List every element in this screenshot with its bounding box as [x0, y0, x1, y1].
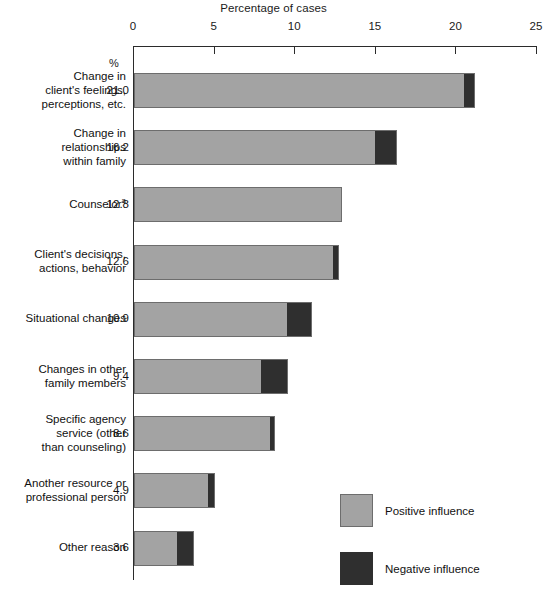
bar-segment-positive	[135, 131, 375, 164]
legend-item-positive: Positive influence	[340, 494, 475, 527]
bar-chart: Percentage of cases 0510152025 % Change …	[0, 0, 547, 592]
bar-row: Situational changes10.9	[0, 302, 547, 335]
bar-row: Specific agencyservice (otherthan counse…	[0, 416, 547, 449]
x-axis-tick-label: 0	[130, 20, 136, 32]
bar-row-label-line: Specific agency	[0, 412, 126, 426]
bar-segment-positive	[135, 417, 270, 450]
bar-row-label-line: Change in	[0, 69, 126, 83]
stacked-bar	[134, 73, 475, 108]
bar-segment-positive	[135, 303, 287, 336]
stacked-bar	[134, 473, 215, 508]
bar-row-label-line: than counseling)	[0, 440, 126, 454]
x-axis-tick-label: 10	[288, 20, 301, 32]
bar-segment-positive	[135, 246, 333, 279]
legend-label-negative: Negative influence	[385, 563, 480, 575]
legend-item-negative: Negative influence	[340, 552, 480, 585]
bar-row: Changes in otherfamily members9.4	[0, 359, 547, 392]
bar-row-value: 12.8	[99, 197, 129, 211]
bar-row-value: 16.2	[99, 140, 129, 154]
percent-column-heading: %	[100, 57, 128, 69]
x-axis-tick-label: 5	[210, 20, 216, 32]
bar-row: Change inrelationshipswithin family16.2	[0, 130, 547, 163]
x-axis-tick-mark	[294, 47, 295, 54]
chart-title: Percentage of cases	[0, 2, 547, 14]
bar-segment-negative	[208, 474, 214, 507]
stacked-bar	[134, 359, 288, 394]
bar-segment-negative	[270, 417, 273, 450]
bar-row-value: 8.6	[99, 426, 129, 440]
bar-row-label-line: within family	[0, 154, 126, 168]
bar-row-value: 21.0	[99, 83, 129, 97]
legend-label-positive: Positive influence	[385, 505, 475, 517]
stacked-bar	[134, 245, 339, 280]
legend-swatch-negative-icon	[340, 552, 373, 585]
bar-row-value: 12.6	[99, 254, 129, 268]
stacked-bar	[134, 302, 312, 337]
bar-segment-negative	[177, 532, 193, 565]
bar-segment-negative	[464, 74, 474, 107]
x-axis-tick-mark	[133, 47, 134, 54]
bar-segment-negative	[261, 360, 287, 393]
bar-row: Counselora12.8	[0, 187, 547, 220]
legend-swatch-positive-icon	[340, 494, 373, 527]
bar-row-value: 4.9	[99, 483, 129, 497]
bar-segment-negative	[333, 246, 338, 279]
bar-row-label-line: perceptions, etc.	[0, 97, 126, 111]
x-axis-tick-label: 25	[530, 20, 543, 32]
x-axis-tick-mark	[214, 47, 215, 54]
stacked-bar	[134, 187, 342, 222]
bar-segment-positive	[135, 188, 341, 221]
bar-segment-positive	[135, 360, 261, 393]
x-axis-tick-label: 15	[368, 20, 381, 32]
bar-row-value: 9.4	[99, 369, 129, 383]
x-axis-tick-label: 20	[449, 20, 462, 32]
bar-row-value: 3.6	[99, 540, 129, 554]
x-axis-tick-mark	[375, 47, 376, 54]
stacked-bar	[134, 531, 194, 566]
x-axis-tick-mark	[536, 47, 537, 54]
bar-segment-positive	[135, 74, 464, 107]
bar-row: Change inclient's feelings,perceptions, …	[0, 73, 547, 106]
stacked-bar	[134, 130, 397, 165]
bar-row: Client's decisions,actions, behavior12.6	[0, 245, 547, 278]
x-axis-line	[133, 46, 537, 47]
stacked-bar	[134, 416, 275, 451]
x-axis-tick-mark	[455, 47, 456, 54]
bar-segment-positive	[135, 532, 177, 565]
bar-segment-negative	[375, 131, 396, 164]
bar-row-label-line: Change in	[0, 126, 126, 140]
bar-segment-negative	[287, 303, 311, 336]
bar-row-value: 10.9	[99, 311, 129, 325]
bar-segment-positive	[135, 474, 208, 507]
